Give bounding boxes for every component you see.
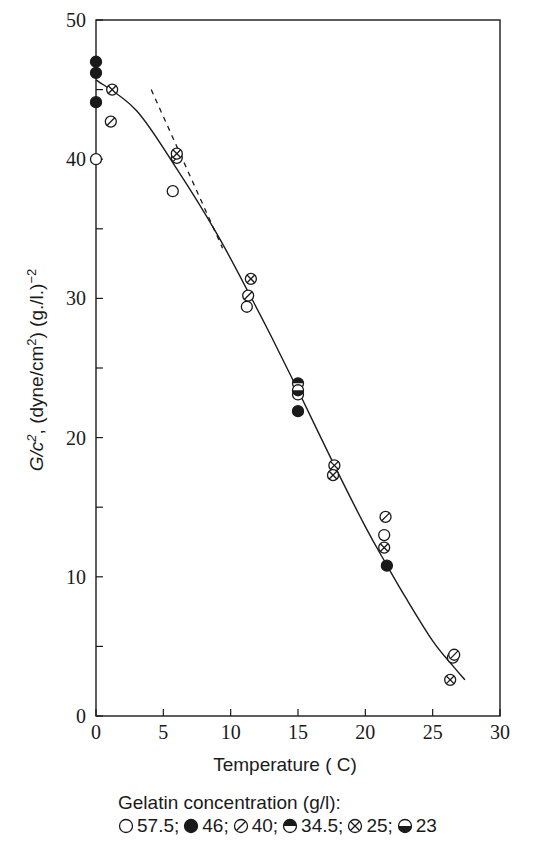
legend-item: 57.5; xyxy=(118,814,179,837)
legend-label: 23 xyxy=(416,814,437,837)
plot-frame xyxy=(96,20,500,716)
data-point-bottom-half-filled-circle xyxy=(293,385,304,396)
data-point-open-circle xyxy=(91,154,102,165)
open-circle-icon xyxy=(120,819,133,832)
data-point-crossed-circle xyxy=(107,84,118,95)
data-point-crossed-circle xyxy=(379,542,390,553)
open-circle-icon xyxy=(118,818,134,834)
y-tick-label: 20 xyxy=(66,427,86,449)
data-point-open-circle xyxy=(241,301,252,312)
data-point-slashed-circle xyxy=(380,511,391,522)
data-point-crossed-circle xyxy=(445,674,456,685)
y-tick-label: 30 xyxy=(66,287,86,309)
data-point-filled-circle xyxy=(91,67,102,78)
bottom-half-filled-circle-icon xyxy=(398,819,411,832)
x-tick-label: 25 xyxy=(423,721,443,743)
legend-label: 57.5; xyxy=(137,814,179,837)
y-tick-label: 0 xyxy=(76,705,86,727)
legend: Gelatin concentration (g/l): 57.5;46;40;… xyxy=(118,791,534,837)
data-point-filled-circle xyxy=(381,560,392,571)
x-tick-label: 20 xyxy=(355,721,375,743)
data-point-crossed-circle xyxy=(245,273,256,284)
legend-item: 34.5; xyxy=(282,814,343,837)
slashed-circle-icon xyxy=(234,819,247,832)
data-point-filled-circle xyxy=(293,406,304,417)
data-point-filled-circle xyxy=(91,97,102,108)
legend-item: 23 xyxy=(397,814,437,837)
plot-axes: 05101520253001020304050 xyxy=(66,9,510,743)
x-axis-title: Temperature ( C) xyxy=(213,754,357,775)
y-tick-label: 40 xyxy=(66,148,86,170)
legend-label: 34.5; xyxy=(301,814,343,837)
legend-item: 40; xyxy=(233,814,278,837)
bottom-half-filled-circle-icon xyxy=(397,818,413,834)
fit-curve xyxy=(96,80,465,680)
legend-item: 25; xyxy=(347,814,392,837)
chart-canvas: 05101520253001020304050 Temperature ( C)… xyxy=(0,0,534,780)
x-tick-label: 30 xyxy=(490,721,510,743)
filled-circle-icon xyxy=(183,818,199,834)
data-point-filled-circle xyxy=(91,56,102,67)
x-tick-label: 5 xyxy=(158,721,168,743)
top-half-filled-circle-icon xyxy=(284,819,297,832)
fit-curves xyxy=(96,80,465,680)
data-point-crossed-circle xyxy=(171,148,182,159)
legend-title: Gelatin concentration (g/l): xyxy=(118,791,534,814)
x-tick-label: 15 xyxy=(288,721,308,743)
y-tick-label: 10 xyxy=(66,566,86,588)
legend-items: 57.5;46;40;34.5;25;23 xyxy=(118,814,534,837)
data-point-slashed-circle xyxy=(105,116,116,127)
y-tick-label: 50 xyxy=(66,9,86,31)
legend-label: 25; xyxy=(366,814,392,837)
crossed-circle-icon xyxy=(349,819,362,832)
legend-label: 40; xyxy=(252,814,278,837)
top-half-filled-circle-icon xyxy=(282,818,298,834)
filled-circle-icon xyxy=(185,819,198,832)
x-tick-label: 0 xyxy=(91,721,101,743)
x-tick-label: 10 xyxy=(221,721,241,743)
y-axis-title: G/c2, (dyne/cm2) (g./l.)−2 xyxy=(24,269,48,471)
data-point-slashed-circle xyxy=(243,290,254,301)
data-point-crossed-circle xyxy=(328,470,339,481)
legend-label: 46; xyxy=(202,814,228,837)
data-point-slashed-circle xyxy=(449,649,460,660)
legend-item: 46; xyxy=(183,814,228,837)
data-points xyxy=(91,56,460,685)
data-point-open-circle xyxy=(167,186,178,197)
slashed-circle-icon xyxy=(233,818,249,834)
crossed-circle-icon xyxy=(347,818,363,834)
data-point-open-circle xyxy=(379,530,390,541)
